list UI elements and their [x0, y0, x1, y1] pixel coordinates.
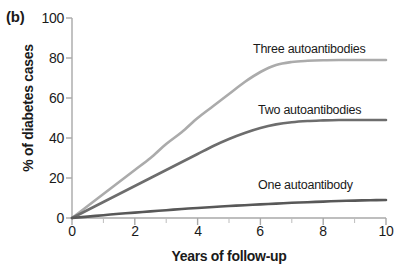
x-tick-marks — [72, 218, 386, 225]
series-paths — [72, 60, 386, 218]
series-label-two-autoantibodies: Two autoantibodies — [258, 103, 361, 117]
figure-panel-b: (b) % of diabetes cases Years of follow-… — [0, 0, 405, 274]
series-label-one-autoantibody: One autoantibody — [258, 178, 353, 192]
y-tick-marks — [66, 18, 72, 218]
series-label-three-autoantibodies: Three autoantibodies — [253, 42, 365, 56]
series-line-one-autoantibody — [72, 200, 386, 218]
series-line-two-autoantibodies — [72, 120, 386, 218]
